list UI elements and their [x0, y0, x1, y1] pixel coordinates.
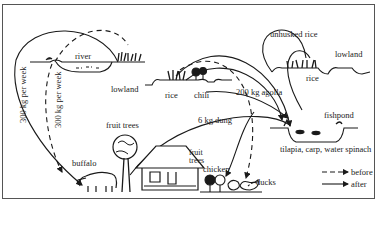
label-fruit-trees-left: fruit trees — [106, 121, 139, 130]
label-rice-left: rice — [165, 91, 178, 100]
label-fishpond: fishpond — [324, 111, 354, 120]
label-fishpond-species: tilapia, carp, water spinach — [280, 145, 371, 154]
label-buffalo: buffalo — [72, 159, 96, 168]
lowland-field-icon — [145, 68, 232, 86]
label-chicken: chicken — [203, 165, 229, 174]
label-agolla: 200 kg agolla — [236, 88, 282, 97]
small-fruit-trees-icon — [205, 175, 225, 192]
buffalo-icon — [77, 172, 116, 192]
label-fruit-trees-right-line2: trees — [189, 157, 204, 165]
label-dung: 6 kg dung — [198, 116, 232, 125]
legend-before-label: before — [351, 168, 373, 177]
label-lowland-right: lowland — [335, 50, 362, 59]
label-ducks: ducks — [256, 178, 276, 187]
label-chili: chili — [194, 91, 209, 100]
flow-arrow-dashed-river — [55, 30, 128, 62]
fishpond-icon — [270, 120, 358, 142]
label-river: river — [75, 52, 91, 61]
label-lowland-left: lowland — [111, 85, 138, 94]
legend-after-label: after — [351, 180, 367, 189]
lowland-field-right-icon — [272, 60, 370, 74]
label-dashed-300kg: 300 kg per week — [54, 72, 63, 128]
flow-arrow-solid-buffalo — [15, 31, 118, 185]
label-unhusked-rice: unhusked rice — [270, 30, 317, 39]
label-rice-right: rice — [306, 74, 319, 83]
label-solid-300kg: 300 kg per week — [19, 67, 28, 123]
chicken-icon — [228, 180, 239, 190]
